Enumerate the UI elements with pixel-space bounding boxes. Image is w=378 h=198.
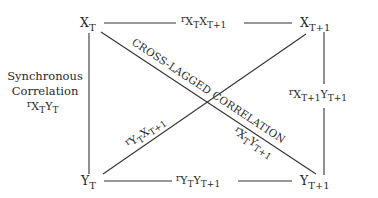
- right-edge-correlation-label: rXT+1YT+1: [289, 87, 347, 103]
- node-x-t-plus-1: XT+1: [300, 15, 330, 33]
- diagonal-up-edge: [103, 34, 306, 174]
- synchronous-label-line2: Correlation: [12, 84, 79, 98]
- top-edge-correlation-label: rXTXT+1: [181, 14, 226, 30]
- cross-lagged-panel-diagram: XT XT+1 YT YT+1 rXTXT+1 rYTYT+1 rXT+1YT+…: [0, 0, 378, 198]
- node-y-t-plus-1: YT+1: [299, 173, 330, 191]
- bottom-edge-correlation-label: rYTYT+1: [176, 173, 220, 189]
- synchronous-label-line1: Synchronous: [7, 69, 83, 83]
- left-edge-correlation-label: rXTYT: [27, 99, 58, 115]
- node-y-t: YT: [80, 173, 96, 191]
- node-x-t: XT: [80, 15, 96, 33]
